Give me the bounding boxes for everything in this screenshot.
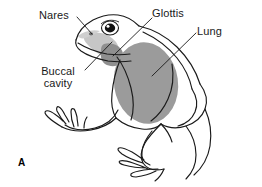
label-lung: Lung [197, 25, 222, 37]
eye-pupil [105, 24, 115, 33]
forefoot-digit-4 [84, 117, 87, 128]
foreleg-underside [65, 110, 118, 130]
forefoot-digit-3 [71, 109, 78, 127]
hindleg-shank-inner [186, 126, 196, 179]
label-buccal-cavity-line1: Buccal [41, 65, 75, 77]
forefoot-digit-1 [45, 111, 63, 127]
label-buccal-cavity-line2: cavity [44, 77, 73, 89]
frog-anatomy-figure: Nares Glottis Lung Buccal cavity A [0, 0, 262, 187]
hindleg-thigh-inner [178, 89, 197, 126]
label-buccal-cavity: Buccal cavity [30, 65, 86, 89]
organ-shading-group [78, 30, 183, 128]
label-glottis: Glottis [152, 7, 184, 19]
eye-group [101, 20, 119, 35]
hindfoot-outline [141, 124, 164, 170]
hindleg-shank-outline [194, 109, 211, 175]
panel-letter-a: A [18, 157, 25, 168]
frog-illustration [0, 0, 262, 187]
eye-highlight [107, 25, 110, 28]
label-nares: Nares [39, 9, 69, 21]
